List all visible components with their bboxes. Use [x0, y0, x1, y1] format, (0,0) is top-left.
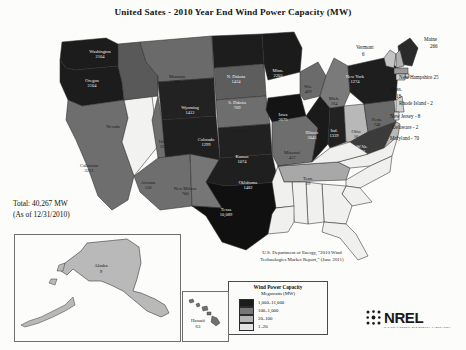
state-label-oh: Ohio — [352, 129, 362, 134]
state-wa — [60, 38, 120, 70]
state-nd — [212, 34, 264, 68]
state-label-ok: Oklahoma — [239, 180, 258, 185]
hawaii-value: 63 — [196, 324, 201, 329]
state-value-az: 128 — [145, 185, 153, 190]
state-label-ia: Iowa — [279, 112, 288, 117]
state-label-ca: California — [80, 163, 98, 168]
state-label-or: Oregon — [85, 78, 99, 83]
hawaii-name: Hawaii — [191, 318, 205, 323]
callout-2: New Hampshire 25 — [399, 74, 439, 80]
state-value-ca: 3251 — [85, 168, 94, 173]
wind-power-map-page: United Sates - 2010 Year End Wind Power … — [0, 0, 466, 350]
state-label-nv: Nevada — [106, 124, 120, 129]
state-value-ks: 1074 — [238, 159, 248, 164]
state-label-in: Ind. — [330, 128, 337, 133]
total-date-line: (As of 12/31/2010) — [13, 210, 70, 221]
state-label-wy: Wyoming — [181, 105, 199, 110]
callout-7: Maryland - 70 — [390, 135, 419, 141]
legend-swatch-0 — [239, 299, 254, 307]
state-value-mo: 457 — [289, 155, 297, 160]
state-value-mt: 386 — [174, 79, 182, 84]
state-label-mn: Minn. — [273, 68, 284, 73]
state-label-nm: New Mixico — [174, 186, 197, 191]
source-line-1: U.S. Department of Energy, "2010 Wind — [232, 249, 372, 256]
state-value-mn: 2203 — [274, 73, 284, 78]
state-value-ok: 1482 — [244, 185, 253, 190]
alaska-shape — [61, 239, 169, 317]
callout-name-1: Maine — [424, 36, 437, 42]
state-value-pa: 748 — [374, 122, 382, 127]
total-line: Total: 40,267 MW — [13, 199, 70, 210]
legend-item-3: 1–20 — [239, 323, 324, 331]
state-value-wi: 469 — [305, 89, 313, 94]
state-value-sd: 709 — [234, 105, 242, 110]
state-label-tx: Texas — [221, 207, 232, 212]
state-value-or: 2104 — [88, 83, 98, 88]
state-label-wa: Washington — [89, 49, 111, 54]
state-label-az: Arizona — [141, 180, 156, 185]
state-ms — [292, 182, 308, 224]
total-capacity-block: Total: 40,267 MW (As of 12/31/2010) — [13, 199, 70, 220]
state-value-ny: 1274 — [351, 79, 361, 84]
state-ca — [66, 100, 134, 210]
state-label-co: Colorado — [198, 137, 215, 142]
nrel-mark-icon — [366, 310, 381, 325]
state-value-wy: 1412 — [186, 110, 195, 115]
legend-swatch-1 — [239, 307, 254, 315]
state-label-mo: Missouri — [284, 150, 301, 155]
state-value-mi: 164 — [331, 101, 339, 106]
callout-value-0: 6 — [362, 51, 365, 57]
callout-name-0: Vermont — [356, 44, 374, 50]
legend-title: Wind Power Capacity — [232, 284, 324, 291]
state-value-nd: 1424 — [232, 79, 242, 84]
state-al — [306, 182, 324, 224]
legend-subtitle: Megawatts (MW) — [232, 291, 324, 298]
state-label-pa: Penn. — [372, 117, 382, 122]
legend-item-2: 20–100 — [239, 315, 324, 323]
callout-name-3: Mass. — [390, 86, 402, 92]
state-value-ia: 3675 — [279, 117, 289, 122]
state-value-wv: 431 — [359, 149, 366, 154]
map-legend: Wind Power Capacity Megawatts (MW) 1,000… — [228, 281, 328, 335]
alaska-inset: Alaska 9 — [14, 234, 181, 342]
state-value-co: 1299 — [202, 142, 212, 147]
source-citation: U.S. Department of Energy, "2010 Wind Te… — [232, 249, 372, 263]
callout-4: Rhode Island - 2 — [399, 100, 433, 106]
state-value-il: 2045 — [308, 135, 318, 140]
legend-rows: 1,000–11,000100–1,00020–1001–20 — [232, 299, 324, 331]
hawaii-inset: Hawaii 63 — [182, 291, 229, 342]
state-label-wi: Wis. — [304, 84, 312, 89]
alaska-value: 9 — [100, 269, 102, 274]
state-label-ny: New York — [346, 74, 365, 79]
page-title: United Sates - 2010 Year End Wind Power … — [0, 7, 466, 17]
hawaii-value-label: 63 — [185, 324, 211, 330]
state-label-il: Illinois — [306, 130, 319, 135]
alaska-islands — [49, 263, 65, 285]
state-label-ks: Kansas — [236, 154, 249, 159]
legend-label-1: 100–1,000 — [258, 308, 278, 314]
state-value-tn: 29 — [306, 181, 311, 186]
callout-5: New Jersey - 8 — [390, 113, 420, 119]
state-value-id: 353 — [135, 105, 143, 110]
state-value-nm: 700 — [182, 191, 190, 196]
legend-item-0: 1,000–11,000 — [239, 299, 324, 307]
legend-swatch-3 — [239, 323, 254, 331]
state-value-wa: 2104 — [96, 54, 106, 59]
state-label-ne: Nebraska — [231, 128, 248, 133]
legend-label-3: 1–20 — [258, 324, 268, 330]
state-value-ut: 223 — [160, 144, 168, 149]
state-value-ne: 213 — [236, 133, 244, 138]
state-label-sd: S. Dakota — [228, 100, 246, 105]
alaska-name: Alaska — [94, 263, 107, 268]
callout-value-1: 266 — [430, 43, 438, 49]
callout-value-3: 18 — [396, 93, 401, 99]
state-label-nd: N. Dakota — [227, 74, 246, 79]
source-line-2: Technologies Market Report," (June 2011) — [232, 256, 372, 263]
state-label-tn: Tenn. — [303, 176, 313, 181]
legend-swatch-2 — [239, 315, 254, 323]
state-label-ut: Utah — [159, 139, 168, 144]
alaska-value-label: 9 — [77, 269, 125, 275]
nrel-tagline: NATIONAL RENEWABLE ENERGY LABORATORY — [384, 326, 451, 329]
legend-label-0: 1,000–11,000 — [258, 300, 284, 306]
state-value-oh: 10 — [354, 134, 359, 139]
